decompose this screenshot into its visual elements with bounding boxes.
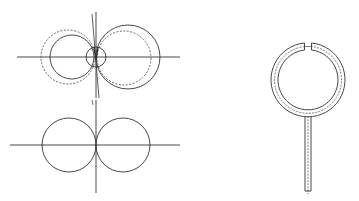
loop-antenna-panel xyxy=(271,43,345,194)
dipole-with-offset-panel xyxy=(17,12,180,98)
tilted-tick xyxy=(92,100,93,105)
dipole-pattern-panel xyxy=(10,100,180,193)
loop-inner-conductor xyxy=(274,47,341,114)
right-lobe-dashed xyxy=(97,31,151,85)
diagram-canvas xyxy=(0,0,359,201)
loop-outer-wall xyxy=(271,43,345,117)
loop-inner-wall xyxy=(278,50,338,110)
